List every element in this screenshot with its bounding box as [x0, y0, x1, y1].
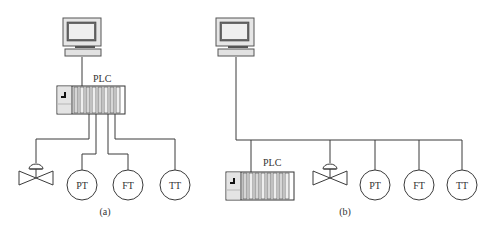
- pt-label: PT: [369, 180, 381, 191]
- diagram-canvas: PLC PT FT TT (a) PLC: [0, 0, 495, 230]
- plc-label: PLC: [263, 157, 282, 168]
- plc-label: PLC: [93, 73, 112, 84]
- computer-icon: [216, 18, 254, 56]
- ft-transmitter: FT: [404, 170, 434, 200]
- plc-rack-icon: [226, 172, 294, 200]
- pt-transmitter: PT: [360, 170, 390, 200]
- caption-a: (a): [99, 206, 110, 218]
- ft-transmitter: FT: [113, 170, 143, 200]
- tt-transmitter: TT: [160, 170, 190, 200]
- ft-label: FT: [122, 180, 134, 191]
- caption-b: (b): [339, 206, 351, 218]
- wire-valve: [36, 114, 89, 163]
- control-valve-icon: [19, 164, 53, 185]
- diagram-a: PLC PT FT TT (a): [19, 18, 190, 218]
- tt-label: TT: [456, 180, 468, 191]
- tt-label: TT: [169, 180, 181, 191]
- tt-transmitter: TT: [447, 170, 477, 200]
- pt-transmitter: PT: [67, 170, 97, 200]
- wire-tt: [115, 114, 175, 170]
- computer-icon: [63, 18, 101, 56]
- plc-rack-icon: [57, 86, 125, 114]
- pt-label: PT: [76, 180, 88, 191]
- diagram-b: PLC PT FT TT (b): [216, 18, 477, 218]
- control-valve-icon: [313, 164, 347, 185]
- ft-label: FT: [413, 180, 425, 191]
- wire-ft: [108, 114, 128, 170]
